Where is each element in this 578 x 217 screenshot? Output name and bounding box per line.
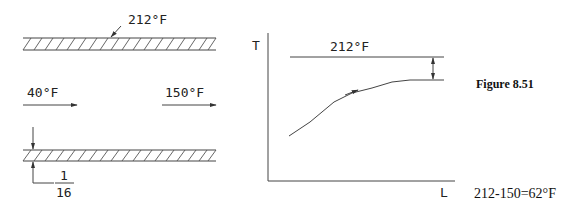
thickness-numerator: 1 xyxy=(60,168,68,183)
thickness-denominator: 16 xyxy=(56,185,72,200)
y-axis-label: T xyxy=(252,38,260,53)
figure-canvas: 212°F 40°F 150°F xyxy=(0,0,578,217)
x-axis-label: L xyxy=(440,185,448,200)
figure-caption: Figure 8.51 xyxy=(476,77,534,91)
fluid-temp-curve xyxy=(289,80,444,136)
wall-temp-label: 212°F xyxy=(128,12,167,27)
inlet-temp-label: 40°F xyxy=(27,85,58,100)
wall-line-label: 212°F xyxy=(330,39,369,54)
bottom-pipe-wall xyxy=(23,150,216,161)
wall-temp-pointer-arrow xyxy=(111,26,121,37)
temperature-difference-result: 212-150=62°F xyxy=(474,186,556,201)
outlet-temp-label: 150°F xyxy=(165,85,204,100)
top-pipe-wall xyxy=(23,38,216,50)
